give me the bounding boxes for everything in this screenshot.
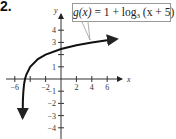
- axes: xy−6−2246−4−3−2−1134: [6, 6, 131, 139]
- y-tick-label: 4: [52, 26, 56, 35]
- x-axis-label: x: [126, 75, 131, 84]
- y-tick-label: −2: [47, 99, 56, 108]
- callout-pointer-shape: [82, 22, 90, 40]
- y-tick-label: −3: [47, 112, 56, 121]
- y-tick-label: 3: [52, 38, 56, 47]
- function-name: g(x): [73, 6, 92, 18]
- curve-g-of-x: [23, 39, 117, 118]
- x-tick-label: −6: [11, 83, 20, 92]
- function-argument: (x + 5): [140, 6, 174, 18]
- y-tick-label: 1: [52, 63, 56, 72]
- x-tick-label: 2: [74, 83, 78, 92]
- function-callout-box: g(x) = 1 + log3 (x + 5): [72, 3, 171, 22]
- y-tick-label: −1: [47, 87, 56, 96]
- x-tick-label: 6: [105, 83, 109, 92]
- curve-right-arrow: [107, 39, 117, 40]
- x-tick-label: 4: [90, 83, 94, 92]
- function-expression: = 1 + log: [92, 6, 137, 18]
- callout-pointer: [82, 22, 90, 40]
- y-axis-label: y: [53, 6, 58, 15]
- y-tick-label: −4: [47, 124, 56, 133]
